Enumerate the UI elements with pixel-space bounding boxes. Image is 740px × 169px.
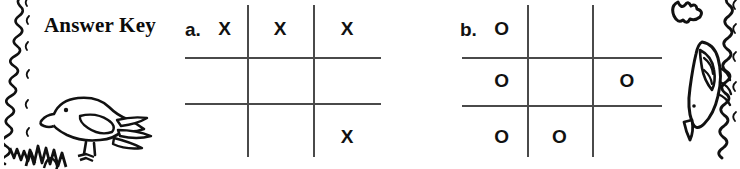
grid-a-cell-r2c0[interactable] — [185, 104, 247, 169]
grid-b-cell-r1c2[interactable]: O — [592, 57, 662, 104]
grid-a-cell-r1c0[interactable] — [185, 57, 247, 104]
grid-b-cell-r2c1[interactable]: O — [527, 104, 592, 169]
grid-a-cell-r2c1[interactable] — [247, 104, 313, 169]
bird-illustration-corner-icon — [664, 0, 710, 34]
grid-b-cell-r0c0[interactable]: O — [462, 0, 527, 57]
grid-b-cell-r2c0[interactable]: O — [462, 104, 527, 169]
grid-a-cell-r0c1[interactable]: X — [247, 0, 313, 57]
grid-b-cell-r1c1[interactable] — [527, 57, 592, 104]
answer-key-page: Answer Key a. X X X X b. — [0, 0, 740, 169]
grid-b-cell-r1c0[interactable]: O — [462, 57, 527, 104]
bird-illustration-right-icon — [676, 24, 740, 154]
right-squiggle-border-icon — [700, 0, 740, 169]
grid-b-cells: O O O O O — [462, 0, 662, 169]
grid-b-cell-r0c2[interactable] — [592, 0, 662, 57]
grid-a-cells: X X X X — [185, 0, 381, 169]
grid-a-cell-r0c0[interactable]: X — [185, 0, 247, 57]
bird-illustration-left-icon — [14, 88, 164, 169]
grid-b-cell-r0c1[interactable] — [527, 0, 592, 57]
tictactoe-grid-b: b. O O O O O — [462, 0, 662, 169]
tictactoe-grid-a: a. X X X X — [185, 0, 381, 169]
grid-a-cell-r0c2[interactable]: X — [313, 0, 381, 57]
page-title: Answer Key — [44, 13, 156, 38]
grid-a-cell-r1c1[interactable] — [247, 57, 313, 104]
grid-b-cell-r2c2[interactable] — [592, 104, 662, 169]
grid-a-cell-r2c2[interactable]: X — [313, 104, 381, 169]
grid-a-cell-r1c2[interactable] — [313, 57, 381, 104]
left-squiggle-border-icon — [4, 0, 38, 169]
